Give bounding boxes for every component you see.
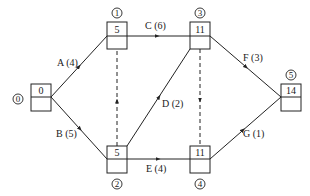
diagram-svg: A (4) B (5) C (6) D (2) E (4) [0, 0, 310, 196]
node-1-id: 1 [115, 8, 120, 18]
node-3-value: 11 [195, 24, 205, 35]
edge-b: B (5) [51, 97, 107, 159]
edge-d: D (2) [127, 49, 190, 146]
node-0: 0 0 [13, 84, 51, 111]
node-4-value: 11 [195, 147, 205, 158]
edge-label-a: A (4) [57, 57, 78, 69]
node-2-value: 5 [115, 147, 120, 158]
edge-f: F (3) [210, 36, 281, 97]
node-5-id: 5 [289, 70, 294, 80]
node-3-id: 3 [198, 8, 203, 18]
edge-label-g: G (1) [243, 128, 264, 140]
network-diagram: A (4) B (5) C (6) D (2) E (4) [0, 0, 310, 196]
edge-label-b: B (5) [56, 128, 77, 140]
node-2-id: 2 [115, 179, 120, 189]
node-3: 11 3 [190, 8, 210, 49]
edge-a: A (4) [51, 36, 107, 97]
node-5: 14 5 [281, 70, 301, 111]
node-4-id: 4 [198, 179, 203, 189]
node-1-value: 5 [115, 24, 120, 35]
node-5-value: 14 [286, 85, 296, 96]
edge-e: E (4) [127, 159, 190, 175]
node-0-value: 0 [39, 85, 44, 96]
node-1: 5 1 [107, 8, 127, 49]
edge-label-c: C (6) [145, 20, 166, 32]
edge-g: G (1) [210, 97, 281, 159]
edge-label-e: E (4) [146, 163, 166, 175]
edge-label-d: D (2) [162, 98, 183, 110]
node-2: 5 2 [107, 146, 127, 189]
node-0-id: 0 [16, 94, 21, 104]
edge-label-f: F (3) [243, 52, 263, 64]
node-4: 11 4 [190, 146, 210, 189]
edge-c: C (6) [127, 20, 190, 36]
